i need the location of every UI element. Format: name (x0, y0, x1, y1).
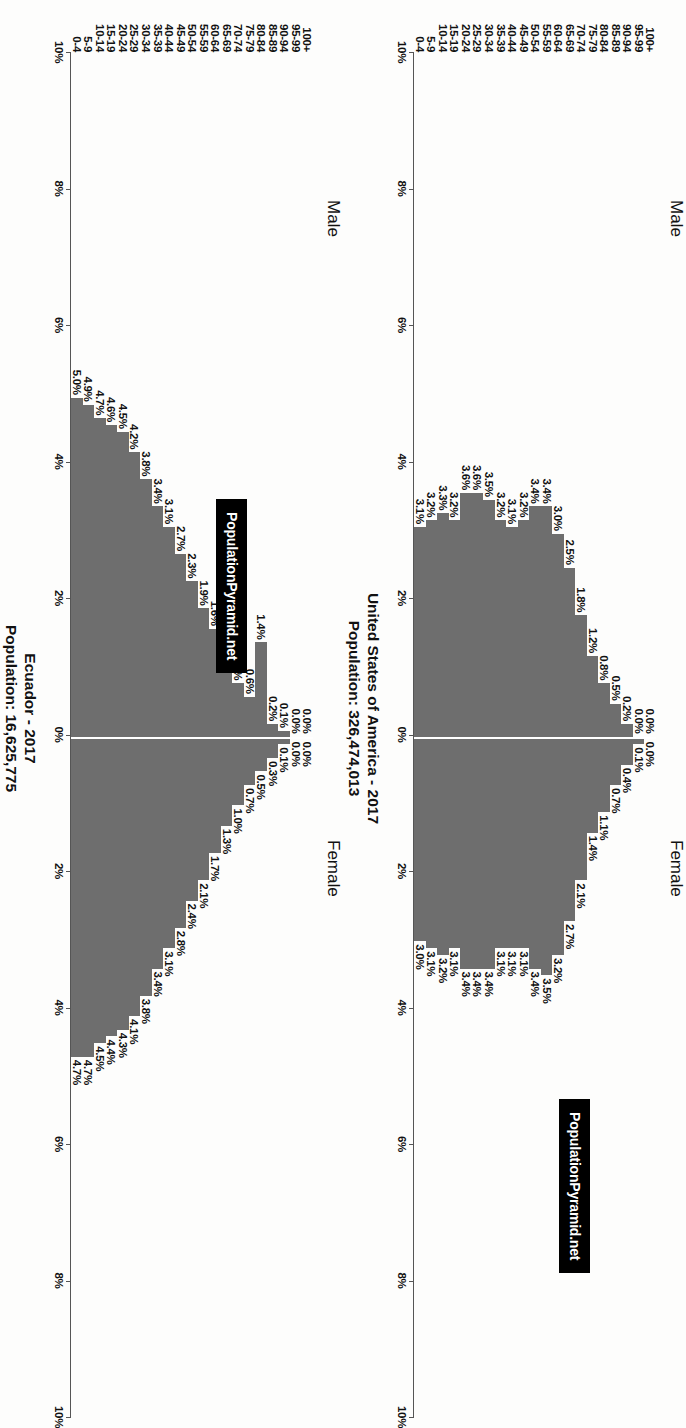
female-bar[interactable] (472, 738, 484, 969)
male-bar[interactable] (564, 568, 576, 738)
male-bar[interactable] (483, 500, 495, 738)
female-bar[interactable] (529, 738, 541, 969)
bar-pair: 1.6%1.7% (209, 58, 221, 1417)
male-bar[interactable] (460, 493, 472, 738)
female-bar[interactable] (175, 738, 187, 928)
female-bar[interactable] (564, 738, 576, 921)
female-bar[interactable] (621, 738, 633, 765)
female-bar[interactable] (552, 738, 564, 955)
female-bar[interactable] (541, 738, 553, 976)
male-half: 5.0% (71, 58, 83, 738)
female-value-label: 3.4% (460, 969, 472, 1000)
female-bar[interactable] (83, 738, 95, 1057)
female-bar[interactable] (186, 738, 198, 901)
female-bar[interactable] (244, 738, 256, 786)
female-bar[interactable] (460, 738, 472, 969)
female-bar[interactable] (449, 738, 461, 949)
female-bar[interactable] (506, 738, 518, 949)
female-bar[interactable] (587, 738, 599, 833)
axis-tick (409, 52, 414, 53)
male-bar[interactable] (414, 527, 426, 738)
male-bar[interactable] (221, 656, 233, 738)
female-bar[interactable] (106, 738, 118, 1037)
male-value-label: 5.0% (71, 367, 83, 398)
male-value-label: 1.9% (198, 577, 210, 608)
male-bar[interactable] (598, 683, 610, 737)
female-bar[interactable] (198, 738, 210, 881)
female-value-label: 2.7% (564, 921, 576, 952)
male-half: 0.0% (290, 58, 302, 738)
male-bar[interactable] (71, 398, 83, 738)
male-bar[interactable] (575, 615, 587, 737)
female-bar[interactable] (483, 738, 495, 969)
female-bar[interactable] (518, 738, 530, 949)
male-bar[interactable] (244, 697, 256, 738)
male-bar[interactable] (83, 405, 95, 738)
male-half: 0.8% (598, 58, 610, 738)
male-bar[interactable] (529, 506, 541, 737)
male-half: 4.7% (94, 58, 106, 738)
female-bar[interactable] (278, 738, 290, 745)
female-bar[interactable] (610, 738, 622, 786)
male-bar[interactable] (209, 629, 221, 738)
female-bar[interactable] (71, 738, 83, 1057)
male-bar[interactable] (495, 520, 507, 737)
female-bar[interactable] (221, 738, 233, 826)
axis-tick (409, 598, 414, 599)
male-bar[interactable] (152, 506, 164, 737)
population-pyramid-ecuador: Male Female 100+0.0%0.0%95-990.0%0.0%90-… (0, 0, 343, 1417)
female-bar[interactable] (117, 738, 129, 1030)
female-bar[interactable] (140, 738, 152, 996)
male-bar[interactable] (106, 425, 118, 738)
male-bar[interactable] (449, 520, 461, 737)
male-bar[interactable] (541, 506, 553, 737)
male-bar[interactable] (129, 452, 141, 737)
male-bar[interactable] (255, 642, 267, 737)
female-bar[interactable] (495, 738, 507, 949)
male-bar[interactable] (198, 608, 210, 737)
female-bar[interactable] (598, 738, 610, 813)
male-bar[interactable] (552, 534, 564, 738)
male-bar[interactable] (117, 432, 129, 738)
male-bar[interactable] (278, 731, 290, 738)
female-bar[interactable] (267, 738, 279, 758)
female-bar[interactable] (414, 738, 426, 942)
male-bar[interactable] (437, 513, 449, 737)
male-bar[interactable] (587, 656, 599, 738)
axis-tick (66, 735, 71, 736)
female-bar[interactable] (209, 738, 221, 854)
male-bar[interactable] (426, 520, 438, 737)
female-bar[interactable] (129, 738, 141, 1017)
male-value-label: 2.5% (564, 537, 576, 568)
female-bar[interactable] (152, 738, 164, 969)
female-bar[interactable] (255, 738, 267, 772)
female-bar[interactable] (232, 738, 244, 806)
male-bar[interactable] (232, 683, 244, 737)
female-bar[interactable] (437, 738, 449, 955)
pyramid-row: 100+0.0%0.0% (301, 0, 313, 1417)
female-half: 3.4% (529, 738, 541, 1418)
male-bar[interactable] (267, 724, 279, 738)
male-bar[interactable] (186, 581, 198, 737)
bar-pair: 1.4%0.5% (255, 58, 267, 1417)
axis-tick-label: 6% (53, 1136, 65, 1152)
female-bar[interactable] (94, 738, 106, 1044)
male-bar[interactable] (610, 704, 622, 738)
male-bar[interactable] (140, 479, 152, 737)
female-bar[interactable] (163, 738, 175, 949)
male-bar[interactable] (621, 724, 633, 738)
male-bar[interactable] (506, 527, 518, 738)
bar-pair: 1.2%1.4% (587, 58, 599, 1417)
female-value-label: 4.7% (71, 1057, 83, 1088)
male-bar[interactable] (518, 520, 530, 737)
male-bar[interactable] (94, 418, 106, 737)
female-bar[interactable] (633, 738, 645, 745)
population-pyramid-usa: Male Female 100+0.0%0.0%95-990.0%0.1%90-… (343, 0, 686, 1417)
female-value-label: 4.4% (105, 1036, 117, 1067)
female-bar[interactable] (575, 738, 587, 881)
male-bar[interactable] (472, 493, 484, 738)
female-bar[interactable] (426, 738, 438, 949)
male-bar[interactable] (175, 554, 187, 737)
age-group-label: 0-4 (414, 0, 426, 58)
male-bar[interactable] (163, 527, 175, 738)
